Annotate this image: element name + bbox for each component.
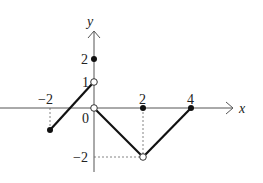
y-tick-2: 2 (81, 52, 88, 67)
open-point-2-neg2 (140, 154, 147, 161)
open-point-0-1 (91, 79, 98, 86)
open-point-0-0 (91, 105, 98, 112)
x-tick-4: 4 (187, 92, 194, 107)
x-tick-2: 2 (139, 92, 146, 107)
y-tick-neg2: −2 (73, 150, 88, 165)
y-tick-1: 1 (82, 75, 89, 90)
origin-label: 0 (82, 111, 89, 126)
closed-point-neg2-neg1 (47, 127, 53, 133)
y-axis-label: y (85, 14, 94, 29)
closed-point-0-2 (91, 56, 97, 62)
function-graph: y x 0 −2 2 4 2 1 −2 (0, 0, 263, 183)
segment-2 (96, 110, 141, 155)
x-axis-label: x (238, 101, 246, 116)
segment-3 (145, 108, 191, 155)
x-tick-neg2: −2 (38, 92, 53, 107)
